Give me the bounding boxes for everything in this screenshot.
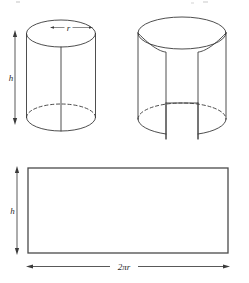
cut-cylinder-bottom-front-left-arc: [138, 119, 166, 134]
panel-cylinder-cut: [138, 17, 226, 139]
rectangle-height-dimension: h: [10, 166, 19, 255]
cut-cylinder-bottom-front-right-arc: [198, 119, 226, 134]
unrolled-rectangle: [28, 168, 228, 253]
rectangle-width-arrow-right: [223, 264, 230, 268]
cylinder-height-arrow-top: [13, 30, 17, 37]
cut-cylinder-inner-left-edge: [138, 33, 166, 139]
rectangle-width-dimension: 2πr: [26, 262, 230, 272]
scan-artifacts: [16, 1, 208, 184]
cut-cylinder-bottom-back-arc: [138, 103, 226, 119]
cut-cylinder-inner-right-edge: [198, 33, 226, 139]
figure-canvas: r h: [0, 0, 249, 283]
cut-cylinder-top-ellipse: [138, 17, 226, 49]
rectangle-width-label: 2πr: [118, 262, 131, 272]
cylinder-height-arrow-bottom: [13, 118, 17, 125]
cylinder-height-label: h: [9, 73, 14, 83]
panel-cylinder-closed: r h: [9, 20, 96, 131]
cylinder-height-dimension: h: [9, 30, 17, 125]
rectangle-height-arrow-bottom: [15, 248, 19, 255]
panel-rectangle-unrolled: h 2πr: [10, 166, 230, 272]
cylinder-top-ellipse: [27, 20, 96, 47]
radius-label: r: [67, 23, 71, 33]
rectangle-height-arrow-top: [15, 166, 19, 173]
rectangle-height-label: h: [10, 206, 15, 216]
cylinder-unrolling-figure: r h: [0, 0, 249, 283]
radius-arrow-left: [50, 26, 54, 29]
rectangle-width-arrow-left: [26, 264, 33, 268]
